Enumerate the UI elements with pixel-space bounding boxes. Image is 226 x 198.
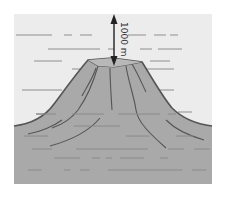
diagram-canvas: 1000 m xyxy=(0,0,226,198)
depth-label: 1000 m xyxy=(119,22,129,57)
seamount-illustration xyxy=(0,0,226,198)
